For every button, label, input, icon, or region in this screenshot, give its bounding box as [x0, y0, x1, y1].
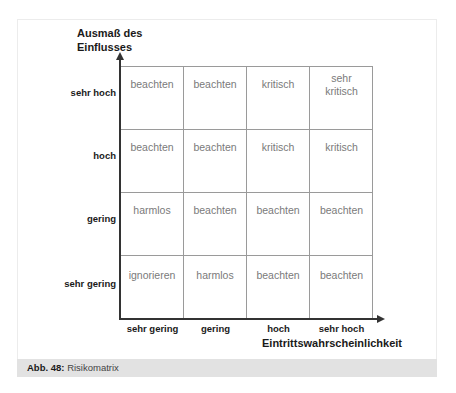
matrix-cell: kritisch	[247, 130, 310, 193]
matrix-cell: kritisch	[247, 67, 310, 130]
matrix-cell: beachten	[310, 193, 373, 256]
matrix-cell: beachten	[184, 67, 247, 130]
matrix-cell: sehr kritisch	[310, 67, 373, 130]
cell-line: kritisch	[325, 85, 358, 98]
row-label-sehr-hoch: sehr hoch	[71, 87, 116, 98]
matrix-cell: kritisch	[310, 130, 373, 193]
row-label-sehr-gering: sehr gering	[64, 278, 116, 289]
risk-matrix-grid: beachten beachten kritisch sehr kritisch…	[121, 66, 373, 318]
col-label-sehr-hoch: sehr hoch	[310, 323, 373, 334]
row-label-gering: gering	[87, 213, 116, 224]
col-label-hoch: hoch	[247, 323, 310, 334]
row-label-hoch: hoch	[93, 150, 116, 161]
caption-text: Risikomatrix	[67, 362, 119, 373]
y-axis-title-line1: Ausmaß des	[77, 26, 142, 40]
matrix-cell: beachten	[121, 67, 184, 130]
figure-caption: Abb. 48: Risikomatrix	[17, 359, 437, 377]
matrix-cell: harmlos	[184, 256, 247, 319]
matrix-cell: harmlos	[121, 193, 184, 256]
matrix-cell: ignorieren	[121, 256, 184, 319]
matrix-cell: beachten	[184, 130, 247, 193]
col-label-gering: gering	[184, 323, 247, 334]
matrix-cell: beachten	[310, 256, 373, 319]
x-axis	[119, 318, 379, 320]
matrix-cell: beachten	[247, 193, 310, 256]
x-axis-arrow-icon	[377, 315, 385, 323]
matrix-cell: beachten	[121, 130, 184, 193]
y-axis-title: Ausmaß des Einflusses	[77, 26, 142, 54]
caption-label: Abb. 48:	[27, 362, 64, 373]
cell-line: sehr	[325, 72, 358, 85]
matrix-cell: beachten	[184, 193, 247, 256]
matrix-cell: beachten	[247, 256, 310, 319]
y-axis-title-line2: Einflusses	[77, 40, 142, 54]
x-axis-title: Eintrittswahrscheinlichkeit	[262, 337, 402, 349]
col-label-sehr-gering: sehr gering	[121, 323, 184, 334]
